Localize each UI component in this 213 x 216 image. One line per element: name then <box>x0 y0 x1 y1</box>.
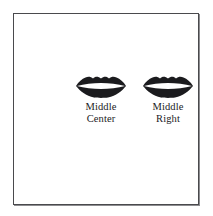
mouth-item-label-line2: Center <box>86 113 117 125</box>
mouth-item-group: Middle Center Middle Right <box>72 76 197 124</box>
mouth-item-label-line1: Middle <box>153 101 184 112</box>
mouth-item-label-line1: Middle <box>86 101 117 112</box>
mouth-item-label: Middle Center <box>86 101 117 124</box>
mouth-item-middle-center[interactable]: Middle Center <box>72 76 130 124</box>
mouth-item-middle-right[interactable]: Middle Right <box>139 76 197 124</box>
mouth-item-label-line2: Right <box>153 113 184 125</box>
bordered-panel: Middle Center Middle Right <box>13 13 199 205</box>
lips-icon <box>143 76 193 98</box>
mouth-item-label: Middle Right <box>153 101 184 124</box>
lips-icon <box>76 76 126 98</box>
diagram-canvas: Middle Center Middle Right <box>0 0 213 216</box>
